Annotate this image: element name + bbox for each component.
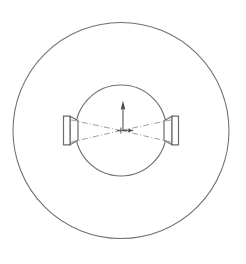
left-nozzle-flange [64,116,71,145]
technical-drawing-canvas [0,0,246,264]
technical-drawing-svg [0,0,246,264]
right-nozzle-flange [172,116,179,145]
